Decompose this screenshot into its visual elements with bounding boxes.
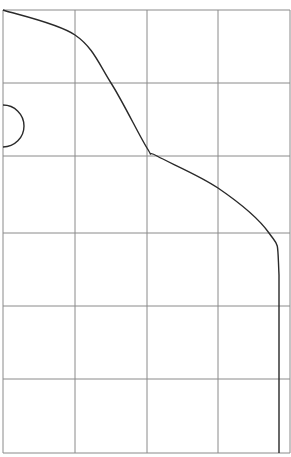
diagram-canvas — [0, 0, 291, 457]
grid-lines — [3, 10, 290, 453]
semicircle — [3, 105, 24, 147]
boundary-curve — [3, 10, 279, 453]
grid-diagram — [0, 0, 291, 457]
